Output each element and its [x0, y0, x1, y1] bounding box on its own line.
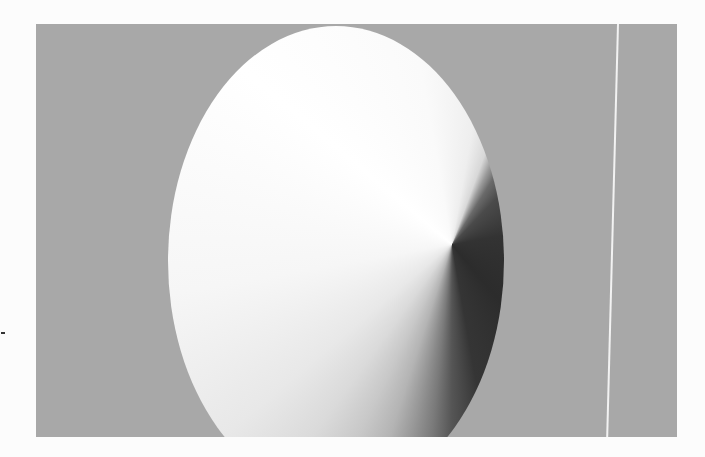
conic-gradient-oval: [168, 26, 504, 437]
small-dark-mark: [1, 332, 5, 334]
vertical-light-streak: [606, 24, 619, 437]
gray-panel: [36, 24, 677, 437]
